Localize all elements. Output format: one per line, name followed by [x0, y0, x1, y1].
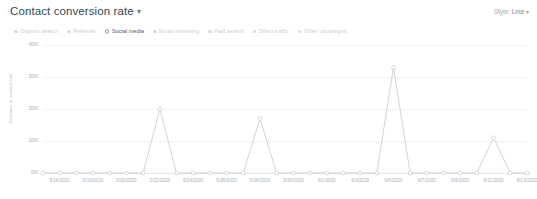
legend-item-social-media[interactable]: Social media	[105, 29, 144, 35]
legend-dot-icon	[208, 30, 212, 34]
plot-area: Sessions to contact rate 0%10%20%30%40% …	[0, 40, 537, 199]
x-axis-tick-label: 6/11/2020	[484, 179, 504, 184]
legend-item-referrals[interactable]: Referrals	[67, 29, 96, 35]
legend-dot-icon	[105, 29, 110, 34]
data-point-marker[interactable]	[191, 171, 195, 175]
x-axis-tick-label: 6/3/2020	[351, 179, 369, 184]
x-axis-tick-label: 5/28/2020	[250, 179, 270, 184]
data-point-marker[interactable]	[508, 171, 512, 175]
x-axis-tick-label: 6/1/2020	[318, 179, 336, 184]
legend-dot-icon	[67, 30, 71, 34]
legend-item-direct-traffic[interactable]: Direct traffic	[253, 29, 289, 35]
legend-item-label: Social media	[112, 29, 144, 35]
legend-item-label: Other campaigns	[304, 29, 347, 35]
data-point-marker[interactable]	[492, 136, 496, 140]
chart-widget: Contact conversion rate▾ Style: Line▾ Or…	[0, 0, 537, 199]
x-axis-tick-label: 6/13/2020	[517, 179, 537, 184]
legend-item-organic-search[interactable]: Organic search	[14, 29, 58, 35]
data-point-marker[interactable]	[392, 66, 396, 70]
data-point-marker[interactable]	[208, 171, 212, 175]
data-point-marker[interactable]	[275, 171, 279, 175]
legend-item-label: Paid search	[214, 29, 244, 35]
data-point-marker[interactable]	[308, 171, 312, 175]
style-selector[interactable]: Style: Line▾	[494, 8, 529, 15]
legend-item-label: Referrals	[73, 29, 96, 35]
data-point-marker[interactable]	[358, 171, 362, 175]
data-point-marker[interactable]	[325, 171, 329, 175]
line-series-social-media	[0, 40, 537, 199]
legend-dot-icon	[253, 30, 257, 34]
x-axis-tick-label: 5/16/2020	[49, 179, 69, 184]
data-point-marker[interactable]	[425, 171, 429, 175]
x-axis-tick-label: 5/20/2020	[116, 179, 136, 184]
data-point-marker[interactable]	[125, 171, 129, 175]
x-axis-tick-label: 5/24/2020	[183, 179, 203, 184]
page-title[interactable]: Contact conversion rate▾	[10, 5, 141, 17]
x-axis-tick-label: 6/7/2020	[418, 179, 436, 184]
data-point-marker[interactable]	[375, 171, 379, 175]
data-point-marker[interactable]	[141, 171, 145, 175]
series-line	[43, 67, 527, 173]
data-point-marker[interactable]	[58, 171, 62, 175]
x-axis-tick-label: 5/26/2020	[216, 179, 236, 184]
chart-legend: Organic searchReferralsSocial mediaEmail…	[14, 26, 534, 37]
data-point-marker[interactable]	[408, 171, 412, 175]
legend-item-label: Direct traffic	[259, 29, 289, 35]
data-point-marker[interactable]	[525, 171, 529, 175]
data-point-marker[interactable]	[442, 171, 446, 175]
legend-item-paid-search[interactable]: Paid search	[208, 29, 244, 35]
x-axis-tick-label: 5/22/2020	[150, 179, 170, 184]
data-point-marker[interactable]	[108, 171, 112, 175]
legend-dot-icon	[153, 30, 157, 34]
chevron-down-icon: ▾	[137, 7, 141, 16]
legend-item-other-campaigns[interactable]: Other campaigns	[298, 29, 347, 35]
legend-item-email-marketing[interactable]: Email marketing	[153, 29, 199, 35]
data-point-marker[interactable]	[241, 171, 245, 175]
style-selector-label: Style:	[494, 8, 510, 15]
x-axis-tick-label: 5/18/2020	[83, 179, 103, 184]
x-axis-tick-label: 6/5/2020	[385, 179, 403, 184]
x-axis-tick-label: 5/30/2020	[283, 179, 303, 184]
data-point-marker[interactable]	[158, 107, 162, 111]
data-point-marker[interactable]	[74, 171, 78, 175]
data-point-marker[interactable]	[175, 171, 179, 175]
page-title-text: Contact conversion rate	[10, 5, 134, 17]
x-axis-tick-label: 6/9/2020	[451, 179, 469, 184]
widget-header: Contact conversion rate▾ Style: Line▾	[0, 0, 537, 24]
style-selector-value: Line	[512, 8, 524, 15]
data-point-marker[interactable]	[41, 171, 45, 175]
data-point-marker[interactable]	[458, 171, 462, 175]
data-point-marker[interactable]	[291, 171, 295, 175]
legend-item-label: Email marketing	[159, 29, 199, 35]
data-point-marker[interactable]	[342, 171, 346, 175]
data-point-marker[interactable]	[258, 117, 262, 121]
legend-item-label: Organic search	[20, 29, 58, 35]
legend-dot-icon	[298, 30, 302, 34]
data-point-marker[interactable]	[475, 171, 479, 175]
data-point-marker[interactable]	[91, 171, 95, 175]
data-point-marker[interactable]	[225, 171, 229, 175]
legend-dot-icon	[14, 30, 18, 34]
chevron-down-icon: ▾	[526, 9, 529, 15]
